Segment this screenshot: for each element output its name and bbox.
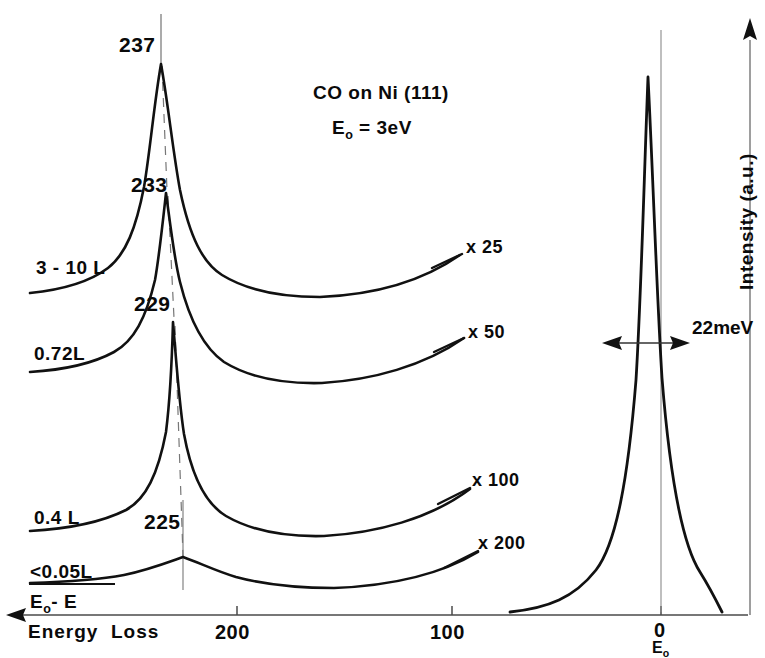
x-axis-left-arrow — [6, 608, 26, 622]
leader-x100-upper — [434, 338, 464, 352]
multiplier-label-x25: x 25 — [466, 238, 503, 256]
dose-label-0-72-L: 0.72L — [34, 344, 85, 363]
dose-label-under-0-05-L-underline — [29, 583, 115, 585]
fwhm-arrow-left-head — [602, 336, 622, 350]
y-axis-label-intensity: Intensity (a.u.) — [736, 153, 758, 290]
x-tick-label-e0: Eo — [652, 640, 669, 658]
figure-title-energy: Eo = 3eV — [332, 118, 412, 141]
x-tick-label-0: 0 — [654, 620, 666, 640]
multiplier-label-x100: x 100 — [472, 471, 520, 489]
peak-label-237: 237 — [119, 34, 156, 55]
multiplier-label-x50: x 50 — [468, 323, 505, 341]
leader-x200 — [444, 551, 478, 568]
dose-label-0-4-L: 0.4 L — [34, 508, 80, 527]
leader-x25 — [432, 254, 462, 268]
x-tick-label-100: 100 — [430, 622, 465, 642]
energy-symbol: E — [332, 117, 345, 138]
fwhm-label-22mev: 22meV — [692, 318, 753, 337]
eels-spectrum-figure: CO on Ni (111) Eo = 3eV 237 233 229 225 … — [0, 0, 765, 658]
x-axis-name-energy-loss: Energy Loss — [28, 622, 159, 641]
dose-label-3-10-L: 3 - 10 L — [36, 258, 105, 277]
e0-subscript: o — [663, 647, 669, 658]
peak-label-229: 229 — [134, 293, 171, 314]
fwhm-arrow-right-head — [670, 336, 690, 350]
curve-0-4-L — [30, 322, 470, 536]
curve-0-72-L — [30, 193, 464, 383]
energy-value: = 3eV — [353, 117, 411, 138]
x-tick-label-200: 200 — [215, 622, 250, 642]
y-axis-up-arrow — [743, 18, 757, 40]
x-axis-name-energy-difference: Eo- E — [30, 592, 77, 615]
peak-label-233: 233 — [131, 174, 168, 195]
x-axis-e-symbol: E — [30, 591, 43, 612]
multiplier-label-x200: x 200 — [478, 534, 526, 552]
e0-symbol: E — [652, 639, 663, 656]
peak-label-225: 225 — [144, 511, 181, 532]
figure-title-system: CO on Ni (111) — [313, 83, 449, 102]
dose-label-under-0-05-L: <0.05L — [30, 562, 93, 581]
leader-x100 — [438, 488, 470, 504]
x-axis-minus-e: - E — [51, 591, 77, 612]
